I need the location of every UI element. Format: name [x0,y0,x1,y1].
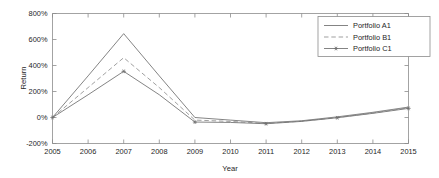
chart-figure: -200%0%200%400%600%800% 2005200620072008… [0,0,439,178]
x-tick-label: 2015 [400,147,416,156]
chart-legend[interactable]: Portfolio A1Portfolio B1Portfolio C1 [318,17,430,57]
legend-label-portfolio-c1[interactable]: Portfolio C1 [353,44,392,53]
x-tick-label: 2008 [151,147,167,156]
y-tick-label: 800% [29,9,48,18]
x-tick-label: 2007 [115,147,131,156]
x-tick-label: 2013 [329,147,345,156]
x-tick-label: 2011 [258,147,274,156]
y-tick-label: 0% [37,113,48,122]
x-tick-label: 2005 [44,147,60,156]
x-tick-label: 2009 [187,147,203,156]
y-tick-label: 200% [29,87,48,96]
x-tick-label: 2014 [365,147,381,156]
x-tick-label: 2012 [293,147,309,156]
x-tick-label: 2006 [80,147,96,156]
legend-label-portfolio-a1[interactable]: Portfolio A1 [353,21,391,30]
line-chart: -200%0%200%400%600%800% 2005200620072008… [0,0,439,178]
x-axis-title: Year [222,164,238,173]
y-axis-title: Return [19,67,28,90]
y-tick-label: 600% [29,35,48,44]
y-tick-label: 400% [29,61,48,70]
legend-label-portfolio-b1[interactable]: Portfolio B1 [353,33,391,42]
x-tick-label: 2010 [222,147,238,156]
